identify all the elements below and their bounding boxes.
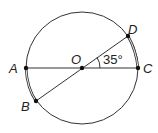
arc-dc [128,36,138,68]
label-c: C [143,61,153,76]
angle-label: 35° [103,52,123,67]
point-a [24,66,28,70]
label-d: D [128,22,137,37]
angle-arc [97,58,100,69]
point-c [136,66,140,70]
label-a: A [8,61,18,76]
diagram: A B C D O 35° [0,0,158,133]
circle-diagram: A B C D O 35° [0,0,158,133]
point-b [34,99,38,103]
label-o: O [71,52,81,67]
label-b: B [21,99,30,114]
arc-ab [26,68,36,101]
